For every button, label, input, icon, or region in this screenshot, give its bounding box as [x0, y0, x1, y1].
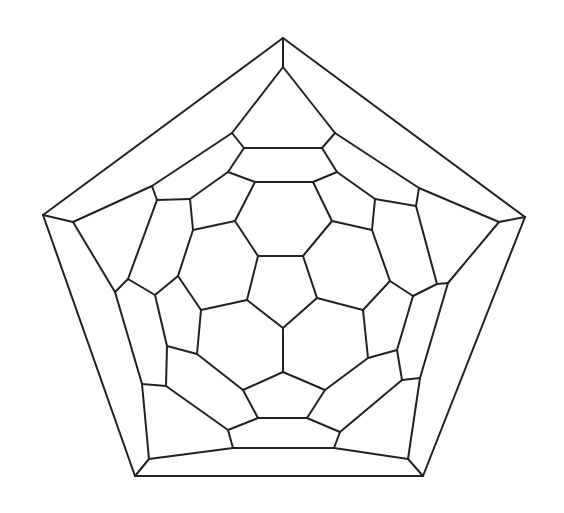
edge	[232, 67, 283, 133]
edge	[448, 222, 499, 283]
edge	[363, 281, 390, 310]
edge	[322, 133, 335, 148]
edge	[193, 221, 235, 230]
edge	[390, 281, 413, 296]
edge	[178, 230, 193, 276]
edge	[307, 390, 325, 418]
edge	[420, 283, 448, 378]
edge	[167, 346, 197, 354]
edge	[135, 459, 149, 476]
edge	[283, 38, 525, 217]
edge	[337, 172, 375, 199]
edge	[313, 182, 332, 221]
edge	[375, 199, 416, 206]
edge	[178, 276, 201, 310]
edge	[228, 172, 255, 182]
edge	[283, 372, 325, 390]
edge	[303, 256, 317, 298]
edge	[499, 217, 525, 222]
edge	[43, 215, 135, 476]
edge	[43, 38, 283, 215]
edge	[340, 380, 402, 432]
edge	[128, 200, 157, 279]
edge	[157, 199, 190, 200]
edge	[228, 418, 258, 430]
edge	[334, 432, 340, 448]
edge	[397, 296, 413, 350]
edge	[317, 298, 363, 310]
edge	[408, 459, 423, 476]
edge	[201, 300, 247, 310]
edge	[363, 310, 368, 358]
edge	[437, 283, 448, 284]
edge	[372, 230, 390, 281]
edge	[334, 448, 408, 459]
edge	[413, 284, 437, 296]
edge	[307, 418, 340, 432]
edge	[235, 182, 255, 221]
edge	[228, 148, 244, 172]
edge	[368, 350, 397, 358]
edge	[115, 279, 128, 292]
edge	[155, 276, 178, 295]
edge	[322, 148, 337, 172]
edge	[166, 386, 228, 430]
edge	[283, 298, 317, 328]
edge	[313, 172, 337, 182]
edge	[283, 67, 335, 133]
edge	[397, 350, 402, 380]
edge	[228, 430, 233, 448]
edge	[142, 384, 166, 386]
edge	[115, 292, 142, 384]
edge	[73, 186, 152, 222]
edge-group	[43, 38, 525, 476]
edge	[416, 188, 419, 206]
edge	[73, 222, 115, 292]
edge	[243, 390, 258, 418]
edge	[332, 221, 372, 230]
edge	[247, 300, 283, 328]
edge	[232, 133, 244, 148]
edge	[419, 188, 499, 222]
fullerene-schlegel-diagram	[0, 0, 564, 513]
edge	[402, 378, 420, 380]
edge	[325, 358, 368, 390]
edge	[43, 215, 73, 222]
edge	[128, 279, 155, 295]
edge	[247, 256, 258, 300]
edge	[190, 199, 193, 230]
edge	[243, 372, 283, 390]
edge	[149, 448, 233, 459]
edge	[152, 186, 157, 200]
edge	[142, 384, 149, 459]
edge	[372, 199, 375, 230]
edge	[190, 172, 228, 199]
edge	[235, 221, 258, 256]
edge	[197, 310, 201, 354]
edge	[416, 206, 437, 284]
edge	[408, 378, 420, 459]
edge	[166, 346, 167, 386]
edge	[423, 217, 525, 476]
edge	[303, 221, 332, 256]
edge	[155, 295, 167, 346]
edge	[197, 354, 243, 390]
